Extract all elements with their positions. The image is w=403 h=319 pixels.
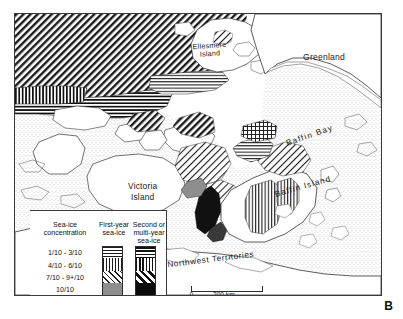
scale-bar-zero-label: 0 (190, 291, 194, 296)
legend-swatches-second-year (135, 246, 156, 296)
legend-swatch-first-year-7-9 (102, 271, 123, 283)
legend-swatch-second-year-10 (135, 283, 156, 295)
legend-swatch-first-year-4-6 (102, 258, 123, 270)
legend-header-second-year-line1: Second or (130, 221, 168, 229)
panel-letter: B (384, 299, 393, 313)
legend-swatch-second-year-1-3 (135, 246, 156, 258)
legend-swatch-first-year-1-3 (102, 246, 123, 258)
legend-row-label: 4/10 - 6/10 (34, 259, 96, 271)
legend-header-second-year-line3: sea-ice (130, 237, 168, 245)
legend-header-concentration: Sea-ice concentration (36, 221, 94, 237)
figure-panel: Ellesmere Island Greenland Baffin Bay Ba… (0, 0, 403, 319)
legend-swatches-first-year (102, 246, 123, 296)
legend-swatch-second-year-4-6 (135, 258, 156, 270)
legend-row-label: 7/10 - 9+/10 (34, 272, 96, 284)
scale-bar: 0 200 km (191, 286, 263, 292)
legend-swatch-first-year-10 (102, 283, 123, 295)
legend-header-second-year-line2: multi-year (130, 229, 168, 237)
scale-bar-max-label: 200 km (213, 291, 235, 296)
legend-row-label: 1/10 - 3/10 (34, 247, 96, 259)
legend-row-label: 10/10 (34, 284, 96, 296)
legend-header-second-year: Second or multi-year sea-ice (130, 221, 168, 246)
legend-header-concentration-line2: concentration (36, 229, 94, 237)
legend-box: Sea-ice concentration First-year sea-ice… (30, 210, 167, 296)
legend-swatch-second-year-7-9 (135, 271, 156, 283)
legend-concentration-labels: 1/10 - 3/10 4/10 - 6/10 7/10 - 9+/10 10/… (34, 247, 96, 296)
legend-header-concentration-line1: Sea-ice (36, 221, 94, 229)
legend-header-first-year: First-year sea-ice (96, 221, 132, 237)
legend-header-first-year-line1: First-year (96, 221, 132, 229)
map-frame: Ellesmere Island Greenland Baffin Bay Ba… (14, 13, 382, 296)
legend-header-first-year-line2: sea-ice (96, 229, 132, 237)
